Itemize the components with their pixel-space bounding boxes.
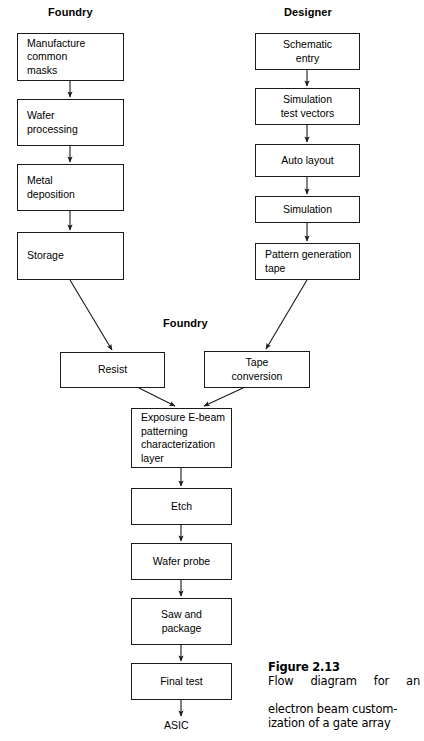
connector-pgtape-to-tapeconversion bbox=[266, 280, 307, 349]
node-etch[interactable]: Etch bbox=[131, 488, 232, 525]
node-wafer-processing[interactable]: Wafer processing bbox=[17, 99, 124, 146]
node-manufacture-common-masks[interactable]: Manufacture common masks bbox=[17, 33, 124, 81]
node-auto-layout[interactable]: Auto layout bbox=[255, 144, 360, 177]
node-final-test[interactable]: Final test bbox=[131, 663, 232, 700]
node-pattern-generation-tape[interactable]: Pattern generation tape bbox=[255, 243, 360, 280]
node-storage[interactable]: Storage bbox=[17, 232, 124, 280]
connector-resist-to-exposure bbox=[139, 388, 175, 406]
node-exposure-ebeam[interactable]: Exposure E-beam patterning characterizat… bbox=[131, 408, 232, 468]
node-metal-deposition[interactable]: Metal deposition bbox=[17, 164, 124, 211]
node-saw-and-package[interactable]: Saw and package bbox=[131, 598, 232, 645]
connector-storage-to-resist bbox=[70, 280, 112, 350]
column-header-foundry-middle: Foundry bbox=[163, 317, 208, 329]
node-schematic-entry[interactable]: Schematic entry bbox=[255, 33, 360, 70]
node-wafer-probe[interactable]: Wafer probe bbox=[131, 543, 232, 580]
node-simulation-test-vectors[interactable]: Simulation test vectors bbox=[255, 88, 360, 125]
column-header-foundry-top: Foundry bbox=[48, 6, 93, 18]
figure-caption: Figure 2.13 Flow diagram for an electron… bbox=[268, 660, 420, 730]
node-resist[interactable]: Resist bbox=[60, 352, 165, 388]
figure-caption-line-3: ization of a gate array bbox=[268, 716, 420, 730]
connector-tapeconversion-to-exposure bbox=[204, 388, 243, 406]
terminal-label-asic: ASIC bbox=[164, 719, 189, 731]
figure-caption-line-1: Flow diagram for an bbox=[268, 674, 420, 702]
figure-caption-line-2: electron beam custom- bbox=[268, 702, 420, 716]
node-tape-conversion[interactable]: Tape conversion bbox=[204, 351, 310, 388]
node-simulation[interactable]: Simulation bbox=[255, 196, 360, 223]
figure-number: Figure 2.13 bbox=[268, 660, 420, 674]
figure-caption-text: Flow diagram for an electron beam custom… bbox=[268, 674, 420, 730]
column-header-designer: Designer bbox=[284, 6, 332, 18]
figure-container: Foundry Designer Foundry Manufacture com… bbox=[0, 0, 424, 741]
